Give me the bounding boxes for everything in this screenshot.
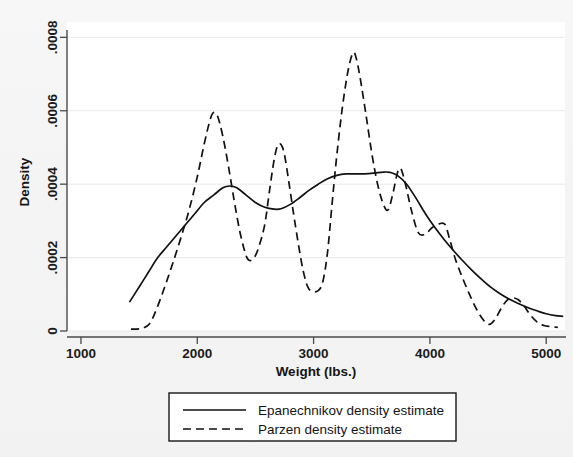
x-tick-label-0: 1000 xyxy=(66,346,96,361)
y-axis-ticks-group xyxy=(60,37,67,331)
density-plot-chart: 0.0002.0004.0006.0008 100020003000400050… xyxy=(0,0,573,457)
y-axis-title: Density xyxy=(17,157,32,206)
x-tick-label-2: 3000 xyxy=(299,346,329,361)
legend-label-parzen: Parzen density estimate xyxy=(258,422,402,437)
x-axis-ticks-group xyxy=(81,337,546,344)
figure-canvas: 0.0002.0004.0006.0008 100020003000400050… xyxy=(0,0,573,457)
y-tick-label-0: 0 xyxy=(45,327,60,335)
x-tick-label-4: 5000 xyxy=(531,346,561,361)
y-tick-label-3: .0006 xyxy=(45,93,60,127)
legend-label-epanechnikov: Epanechnikov density estimate xyxy=(258,403,444,418)
x-axis-tick-labels-group: 10002000300040005000 xyxy=(66,346,561,361)
y-axis-tick-labels-group: 0.0002.0004.0006.0008 xyxy=(45,20,60,335)
y-tick-label-1: .0002 xyxy=(45,241,60,275)
y-tick-label-2: .0004 xyxy=(45,167,60,201)
x-tick-label-3: 4000 xyxy=(415,346,445,361)
x-tick-label-1: 2000 xyxy=(182,346,212,361)
legend: Epanechnikov density estimate Parzen den… xyxy=(169,393,456,441)
x-axis-title: Weight (lbs.) xyxy=(276,364,357,379)
plot-background xyxy=(67,22,565,331)
y-tick-label-4: .0008 xyxy=(45,20,60,54)
